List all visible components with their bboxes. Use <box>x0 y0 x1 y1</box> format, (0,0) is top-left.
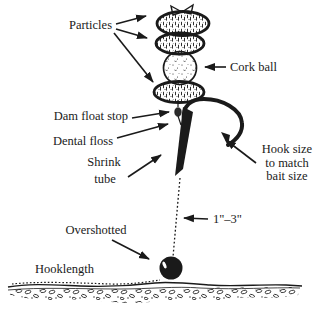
shrink-tube-shape <box>175 107 193 176</box>
label-dam-float-stop: Dam float stop <box>54 109 128 123</box>
label-length-range: 1"–3" <box>213 212 242 226</box>
label-dental-floss: Dental floss <box>53 134 113 148</box>
arrow-shrink-tube <box>128 155 161 177</box>
label-hook-size-line3: bait size <box>266 169 308 183</box>
arrow-length-range <box>184 218 208 219</box>
label-overshotted: Overshotted <box>65 223 127 237</box>
line-to-shot <box>173 178 180 257</box>
label-cork-ball: Cork ball <box>230 60 277 74</box>
label-particles: Particles <box>69 18 112 32</box>
label-hook-size-line2: to match <box>265 156 309 170</box>
arrow-particles-1 <box>116 16 146 24</box>
cork-ball-shape <box>164 52 197 85</box>
label-shrink-tube-line1: Shrink <box>87 155 121 169</box>
ground-surface-line <box>8 282 302 287</box>
gravel-band <box>8 287 302 303</box>
rig-diagram: Particles Cork ball Dam float stop Denta… <box>0 0 317 313</box>
diagram-canvas: Particles Cork ball Dam float stop Denta… <box>0 0 317 313</box>
hook-shape <box>184 99 242 145</box>
shot-ball <box>160 257 183 280</box>
float-stop-bead <box>175 108 181 116</box>
arrow-particles-3 <box>114 33 153 82</box>
arrow-dam-float-stop <box>132 112 169 118</box>
arrow-dental-floss <box>117 124 168 138</box>
label-hooklength: Hooklength <box>35 262 95 276</box>
arrow-hook-size <box>226 140 256 163</box>
arrow-particles-2 <box>116 29 147 38</box>
label-shrink-tube-line2: tube <box>94 172 116 186</box>
hooklength-line-on-bottom <box>12 280 160 284</box>
label-hook-size-line1: Hook size <box>262 142 313 156</box>
floss-to-hook-line <box>178 116 181 125</box>
arrow-overshotted <box>112 240 149 259</box>
